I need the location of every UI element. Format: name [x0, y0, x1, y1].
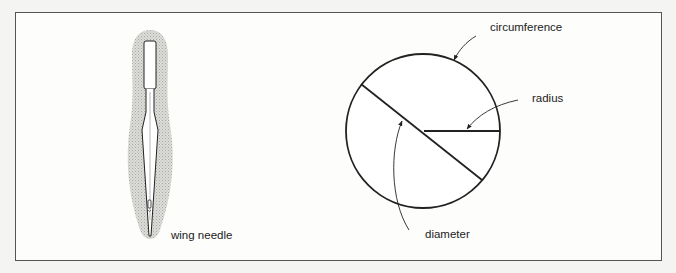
wing-needle-label: wing needle: [171, 229, 232, 241]
needle-eye: [148, 200, 151, 208]
wing-needle-illustration: [128, 30, 173, 239]
circumference-label: circumference: [490, 21, 562, 33]
radius-label: radius: [532, 92, 563, 104]
circumference-arrow: [454, 36, 476, 60]
needle-shank: [144, 41, 156, 89]
circle-illustration: [346, 36, 518, 230]
diameter-label: diameter: [425, 228, 470, 240]
diagram-canvas: [0, 0, 676, 273]
